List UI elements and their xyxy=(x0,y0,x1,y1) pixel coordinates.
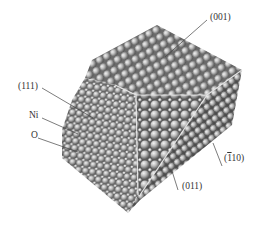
label-110bar-rest: 10 xyxy=(232,153,242,163)
label-111: (111) xyxy=(18,82,38,92)
label-ni: Ni xyxy=(29,111,39,121)
face-111 xyxy=(62,78,138,213)
crystal-model xyxy=(0,0,262,230)
nio-crystal-diagram: (001) (111) Ni O (110) (011) xyxy=(0,0,262,230)
label-110bar-close: ) xyxy=(241,153,244,163)
label-110bar: (110) xyxy=(224,154,244,164)
label-001: (001) xyxy=(210,13,231,23)
label-o: O xyxy=(31,131,38,141)
label-011: (011) xyxy=(182,182,202,192)
